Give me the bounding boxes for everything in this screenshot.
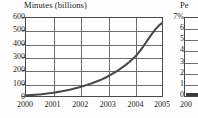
chart-screenshot: Minutes (billions) 600 500 400 300 200 1… — [0, 0, 198, 118]
y-tick-label: 5 — [170, 35, 184, 43]
gridline-horizontal — [185, 51, 198, 52]
y-tick-label: 1 — [170, 80, 184, 88]
percent-chart-partial: Pe 7% 6 5 4 3 2 1 0 200 — [168, 0, 198, 118]
plot-area — [25, 17, 163, 97]
partial-y-axis: 7% 6 5 4 3 2 1 0 — [168, 17, 184, 97]
y-axis: 600 500 400 300 200 100 0 — [0, 17, 25, 97]
y-tick-label: 7% — [170, 13, 184, 21]
chart-title: Minutes (billions) — [24, 0, 154, 11]
partial-chart-title: Pe — [180, 0, 189, 11]
gridline-horizontal — [185, 40, 198, 41]
gridline-horizontal — [185, 29, 198, 30]
gridline-horizontal — [185, 85, 198, 86]
x-tick-label: 2004 — [120, 100, 150, 109]
partial-plot-area — [184, 17, 198, 97]
gridline-horizontal — [185, 74, 198, 75]
y-tick-label: 6 — [170, 24, 184, 32]
partial-x-tick-label: 200 — [180, 100, 192, 109]
x-tick-label: 2003 — [93, 100, 123, 109]
bar-segment — [186, 93, 198, 96]
x-axis: 2000 2001 2002 2003 2004 2005 — [25, 100, 163, 114]
y-tick-label: 0 — [170, 91, 184, 99]
y-tick-label: 3 — [170, 58, 184, 66]
x-tick-label: 2000 — [10, 100, 40, 109]
y-tick-label: 2 — [170, 69, 184, 77]
minutes-line-chart: Minutes (billions) 600 500 400 300 200 1… — [0, 0, 168, 118]
data-line — [26, 18, 162, 96]
x-tick-label: 2001 — [38, 100, 68, 109]
y-tick-label: 4 — [170, 46, 184, 54]
x-tick-label: 2002 — [65, 100, 95, 109]
gridline-horizontal — [185, 63, 198, 64]
